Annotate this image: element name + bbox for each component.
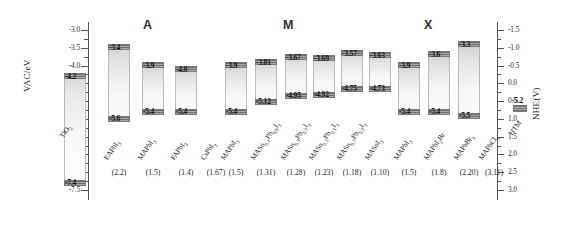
valence-band-value: -5.4 (226, 107, 237, 116)
left-axis-tick-label: -4.0 (54, 61, 80, 70)
valence-band-value: -5.12 (256, 97, 271, 106)
group-header-a: A (143, 18, 152, 32)
right-axis-tick (497, 48, 504, 49)
right-axis-minor-tick (497, 146, 501, 147)
valence-band-value: -5.4 (176, 107, 187, 116)
conduction-band-value: -4.0 (176, 65, 187, 74)
valence-band-value: -5.4 (143, 107, 154, 116)
valence-band-value: -4.73 (370, 84, 385, 93)
material-label: MAPbI3 (218, 137, 240, 163)
conduction-band-value: -3.4 (109, 43, 120, 52)
left-axis-tick (81, 30, 88, 31)
left-axis-tick (81, 190, 88, 191)
right-axis-tick-label: -1.0 (508, 43, 519, 52)
material-label: EAPbI3 (101, 138, 122, 162)
energy-level-diagram: -3.0-3.5-4.0-4.5-5.0-5.5-6.0-6.5-7.0-7.5… (0, 0, 572, 242)
material-label: MAPbI2Br (421, 131, 447, 162)
left-axis-line (88, 22, 89, 200)
left-axis-tick-label: -3.5 (54, 43, 80, 52)
right-axis-tick (497, 190, 504, 191)
material-label: FAPbI3 (168, 139, 189, 162)
conduction-band-value: -3.9 (143, 61, 154, 70)
conduction-band-value: -3.9 (399, 61, 410, 70)
conduction-band-value: -3.3 (459, 40, 470, 49)
right-axis-minor-tick (497, 39, 501, 40)
conduction-band-value: -3.6 (429, 50, 440, 59)
right-axis-tick (497, 101, 504, 102)
conduction-band-value: -3.9 (226, 61, 237, 70)
bandgap-value: (1.8) (422, 168, 456, 177)
valence-band-value: -5.4 (399, 107, 410, 116)
valence-band-value: -7.4 (65, 178, 76, 187)
material-label: MAPbI3 (135, 137, 157, 163)
valence-band-value: -5.5 (459, 111, 470, 120)
right-axis-minor-tick (497, 110, 501, 111)
valence-band-value: -4.95 (286, 91, 301, 100)
right-axis-minor-tick (497, 163, 501, 164)
valence-band-value: -4.92 (314, 90, 329, 99)
htm-bar (513, 105, 527, 112)
conduction-band-value: -3.57 (342, 49, 357, 58)
energy-bar (458, 41, 480, 119)
conduction-band-value: -3.81 (256, 58, 271, 67)
left-axis-minor-tick (84, 57, 88, 58)
right-axis-tick (497, 119, 504, 120)
left-axis-tick-label: -3.0 (54, 25, 80, 34)
bandgap-value: (1.31) (249, 168, 283, 177)
material-label: CsPbI3 (198, 140, 218, 162)
bandgap-value: (3.11) (477, 168, 511, 177)
right-axis-tick-label: -0.5 (508, 61, 519, 70)
right-axis-minor-tick (497, 92, 501, 93)
valence-band-value: -4.75 (342, 84, 357, 93)
group-header-x: X (424, 18, 432, 32)
htm-value: -5.2 (512, 96, 523, 105)
conduction-band-value: -3.63 (370, 51, 385, 60)
right-axis-minor-tick (497, 74, 501, 75)
bandgap-value: (2.2) (102, 168, 136, 177)
bandgap-value: (1.5) (219, 168, 253, 177)
right-axis-tick-label: 3.0 (508, 185, 517, 194)
right-axis-tick (497, 30, 504, 31)
right-axis-minor-tick (497, 57, 501, 58)
energy-bar (108, 44, 130, 122)
right-axis-title: NHE(V) (531, 87, 541, 120)
material-label: MASnI3 (362, 137, 384, 163)
right-axis-tick (497, 66, 504, 67)
left-axis-title: VAC/eV (22, 59, 32, 92)
material-label: MAPbBr3 (451, 133, 476, 163)
left-axis-tick (81, 48, 88, 49)
bandgap-value: (1.5) (136, 168, 170, 177)
conduction-band-value: -3.67 (286, 53, 301, 62)
energy-bar (428, 51, 450, 115)
valence-band-value: -5.4 (429, 107, 440, 116)
group-header-m: M (283, 18, 293, 32)
right-axis-tick-label: 0.0 (508, 78, 517, 87)
left-axis-minor-tick (84, 39, 88, 40)
conduction-band-value: -3.69 (314, 54, 329, 63)
left-axis-tick (81, 66, 88, 67)
right-axis-tick (497, 154, 504, 155)
material-label: MAPbI3 (391, 137, 413, 163)
right-axis-tick (497, 83, 504, 84)
right-axis-tick-label: 2.0 (508, 149, 517, 158)
bandgap-value: (1.5) (392, 168, 426, 177)
right-axis-tick-label: -1.5 (508, 25, 519, 34)
right-axis-minor-tick (497, 128, 501, 129)
conduction-band-value: -4.2 (65, 72, 76, 81)
bandgap-value: (1.4) (169, 168, 203, 177)
valence-band-value: -5.6 (109, 114, 120, 123)
right-axis-minor-tick (497, 181, 501, 182)
